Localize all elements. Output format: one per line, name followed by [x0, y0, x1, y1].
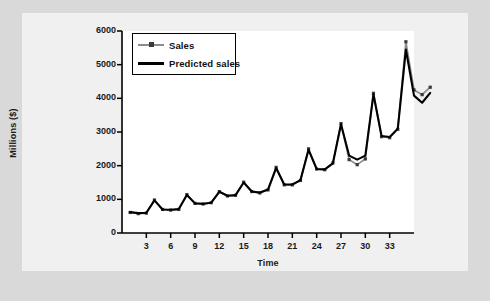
x-tick-label: 24 — [307, 241, 327, 251]
x-tick-label: 30 — [355, 241, 375, 251]
x-tick-label: 21 — [282, 241, 302, 251]
legend-label-predicted-sales: Predicted sales — [169, 58, 240, 69]
y-axis-label: Millions ($) — [8, 98, 18, 168]
legend-label-sales: Sales — [169, 40, 194, 51]
x-tick-label: 12 — [209, 241, 229, 251]
x-axis-label: Time — [238, 258, 298, 268]
legend-item-predicted-sales: Predicted sales — [138, 55, 240, 71]
x-tick-label: 9 — [185, 241, 205, 251]
x-tick-label: 3 — [136, 241, 156, 251]
page-background: 0100020003000400050006000 36912151821242… — [0, 0, 490, 301]
x-tick-label: 33 — [380, 241, 400, 251]
x-tick-label: 15 — [234, 241, 254, 251]
legend-item-sales: Sales — [138, 37, 194, 53]
x-tick-label: 6 — [161, 241, 181, 251]
x-tick-labels: 3691215182124273033 — [0, 0, 490, 301]
chart-legend: Sales Predicted sales — [132, 33, 236, 75]
x-tick-label: 18 — [258, 241, 278, 251]
x-tick-label: 27 — [331, 241, 351, 251]
legend-swatch-sales-icon — [138, 39, 164, 51]
legend-swatch-predicted-icon — [138, 57, 164, 69]
